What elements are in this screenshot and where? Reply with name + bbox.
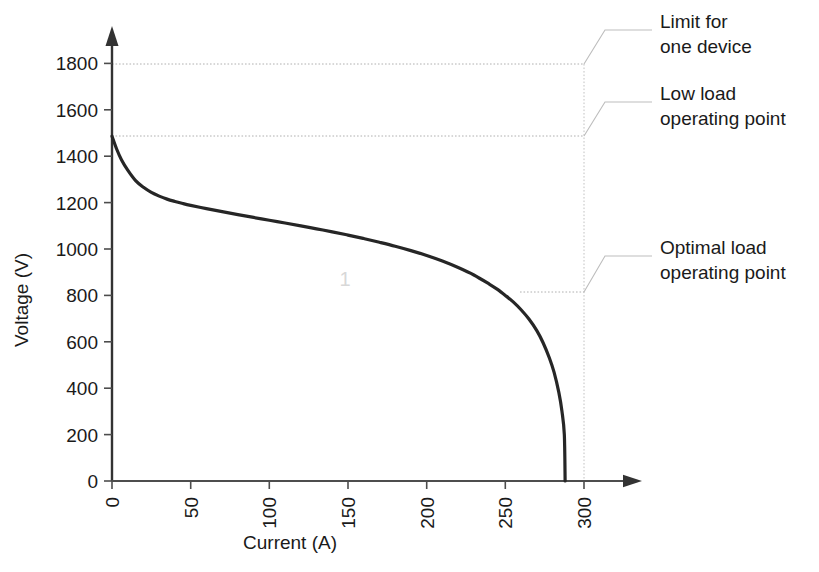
y-tick-label: 1000	[56, 239, 98, 260]
plot-watermark: 1	[339, 268, 350, 290]
y-axis-arrowhead	[106, 26, 119, 46]
leader-line-low-load-operating-point	[584, 102, 652, 136]
x-axis-tick-labels-group: 0 50 100 150 200 250 300	[102, 497, 595, 529]
y-tick-label: 800	[66, 285, 98, 306]
annotation-limit-for-one-device: Limit for one device	[660, 11, 752, 57]
y-tick-label: 600	[66, 332, 98, 353]
x-axis-ticks-group	[112, 481, 584, 489]
x-tick-label: 50	[181, 497, 202, 518]
y-tick-label: 400	[66, 378, 98, 399]
y-tick-label: 1600	[56, 100, 98, 121]
x-tick-label: 250	[495, 497, 516, 529]
data-series-polarization-curve	[112, 136, 565, 481]
chart-figure: 1 0 200 400 600	[0, 0, 819, 572]
x-tick-label: 0	[102, 497, 123, 508]
y-tick-label: 1400	[56, 146, 98, 167]
leader-line-optimal-load-operating-point	[584, 256, 652, 292]
annotation-line: Low load	[660, 83, 736, 104]
annotation-line: operating point	[660, 108, 786, 129]
x-tick-label: 200	[417, 497, 438, 529]
x-tick-label: 300	[574, 497, 595, 529]
y-tick-label: 200	[66, 425, 98, 446]
x-tick-label: 150	[338, 497, 359, 529]
y-axis-tick-labels-group: 0 200 400 600 800 1000 1200 1400 1600 18…	[56, 53, 98, 492]
chart-canvas: 1 0 200 400 600	[0, 0, 819, 572]
annotation-line: one device	[660, 36, 752, 57]
x-tick-label: 100	[259, 497, 280, 529]
annotation-line: operating point	[660, 262, 786, 283]
annotation-line: Limit for	[660, 11, 728, 32]
leader-line-limit-for-one-device	[584, 30, 652, 64]
y-axis-title: Voltage (V)	[11, 253, 32, 347]
x-axis-arrowhead	[623, 475, 642, 487]
annotation-leaders-group	[584, 30, 652, 292]
y-tick-label: 1800	[56, 53, 98, 74]
y-tick-label: 0	[87, 471, 98, 492]
annotation-low-load-operating-point: Low load operating point	[660, 83, 786, 129]
x-axis-title: Current (A)	[243, 532, 337, 553]
annotation-line: Optimal load	[660, 237, 767, 258]
y-tick-label: 1200	[56, 193, 98, 214]
annotation-optimal-load-operating-point: Optimal load operating point	[660, 237, 786, 283]
